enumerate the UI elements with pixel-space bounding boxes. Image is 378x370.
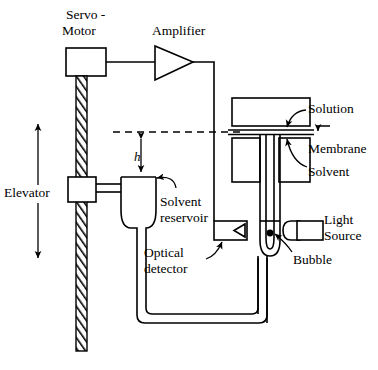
bubble-dot [267, 230, 274, 237]
elevator-carriage-block [68, 177, 96, 202]
elevator-label: Elevator [4, 185, 50, 200]
capillary-u-tube [258, 134, 280, 323]
membrane-leader [318, 126, 330, 131]
light-source [283, 221, 323, 240]
bubble-label: Bubble [293, 252, 332, 267]
threaded-rod-shaft [76, 76, 87, 351]
solvent-chamber-left [232, 138, 260, 182]
optical-detector-leader [206, 242, 222, 259]
bubble [267, 230, 274, 237]
solvent-reservoir-leader [157, 177, 176, 188]
light-source-label-line1: Light [324, 212, 353, 227]
threaded-rod [76, 76, 87, 351]
membrane-label: Membrane [308, 141, 366, 156]
servo-motor-body [66, 48, 106, 76]
solvent-reservoir-label-line2: reservoir [160, 210, 208, 225]
height-label: h [134, 149, 141, 164]
optical-detector [214, 221, 247, 240]
light-source-body [297, 221, 323, 240]
servo-motor-label-line1: Servo - [66, 7, 106, 22]
solution-label: Solution [308, 101, 354, 116]
solvent-reservoir [121, 177, 156, 302]
reservoir-outline-right [146, 177, 156, 302]
solvent-chamber-right [279, 138, 310, 182]
servo-motor [66, 48, 106, 76]
amplifier-triangle [155, 46, 193, 80]
solvent-label: Solvent [308, 164, 350, 179]
light-source-label-line2: Source [324, 228, 362, 243]
optical-detector-label-line2: detector [144, 261, 188, 276]
servo-motor-label-line2: Motor [62, 23, 96, 38]
amplifier-label: Amplifier [152, 23, 206, 38]
solvent-reservoir-label-line1: Solvent [160, 194, 202, 209]
diagram-canvas: Servo - Motor Amplifier Elevator h Solve… [0, 0, 378, 370]
optical-detector-label-line1: Optical [144, 245, 184, 260]
reservoir-outline-left [121, 177, 137, 302]
osmometer-diagram: Servo - Motor Amplifier Elevator h Solve… [0, 0, 378, 370]
elevator-carriage [68, 177, 121, 202]
u-tube-outer-wall [260, 134, 280, 256]
